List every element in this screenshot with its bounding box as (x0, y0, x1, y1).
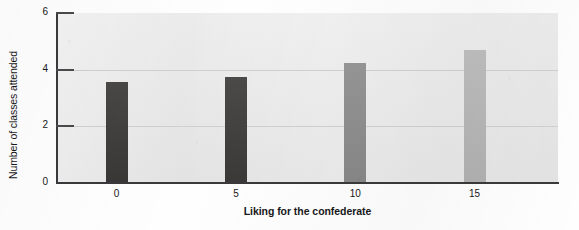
y-tick-label: 4 (22, 63, 48, 74)
x-axis-line (56, 182, 559, 184)
x-tick-label: 15 (455, 188, 495, 199)
bar (464, 50, 486, 183)
plot-area (57, 13, 558, 183)
x-tick-label: 10 (335, 188, 375, 199)
bar (225, 77, 247, 183)
y-tick-label: 6 (22, 6, 48, 17)
bar-chart-figure: Number of classes attended 6420 051015 L… (0, 0, 579, 230)
y-tick-label: 2 (22, 119, 48, 130)
bar-shading (464, 50, 486, 183)
y-tick-mark (56, 69, 74, 71)
x-tick-label: 0 (97, 188, 137, 199)
bar (344, 63, 366, 183)
bar-shading (106, 82, 128, 183)
bar-shading (225, 77, 247, 183)
y-axis-line (56, 12, 58, 184)
y-tick-mark (56, 125, 74, 127)
bar (106, 82, 128, 183)
x-tick-label: 5 (216, 188, 256, 199)
y-tick-mark (56, 12, 74, 14)
y-tick-label: 0 (22, 176, 48, 187)
x-axis-title: Liking for the confederate (57, 205, 558, 217)
bar-shading (344, 63, 366, 183)
y-axis-title: Number of classes attended (0, 0, 26, 230)
